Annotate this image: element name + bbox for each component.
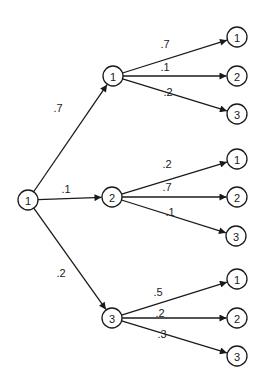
edge-1-to-1 — [123, 40, 227, 73]
node-label: 2 — [234, 313, 240, 325]
probability-label: .7 — [162, 181, 171, 193]
leaf-node-2-1: 1 — [227, 149, 247, 169]
node-label: 1 — [234, 154, 240, 166]
probability-label: .2 — [163, 86, 172, 98]
probability-label: .2 — [155, 307, 164, 319]
edges — [34, 40, 227, 353]
probability-tree-diagram: .7.7.1.2.1.2.7.1.2.5.2.3 1231123212331 — [0, 0, 268, 383]
edge-3-to-3 — [122, 321, 227, 353]
edge-root-to-1 — [34, 85, 107, 192]
root-node: 1 — [18, 190, 38, 210]
probability-label: .2 — [162, 158, 171, 170]
leaf-node-3-3: 3 — [227, 346, 247, 366]
node-label: 1 — [25, 195, 31, 207]
node-label: 3 — [233, 231, 239, 243]
node-label: 1 — [234, 274, 240, 286]
edge-root-to-3 — [34, 208, 106, 309]
probability-label: .3 — [157, 328, 166, 340]
leaf-node-1-2: 2 — [227, 66, 247, 86]
node-label: 3 — [109, 313, 115, 325]
node-label: 2 — [234, 71, 240, 83]
probability-label: .7 — [160, 38, 169, 50]
probability-label: .7 — [53, 102, 62, 114]
leaf-node-3-1: 1 — [227, 269, 247, 289]
leaf-node-1-3: 3 — [227, 104, 247, 124]
node-label: 3 — [234, 351, 240, 363]
edge-1-to-3 — [123, 79, 227, 111]
state-node-1: 1 — [103, 66, 123, 86]
node-label: 1 — [234, 32, 240, 44]
leaf-node-3-2: 2 — [227, 308, 247, 328]
edge-2-to-1 — [122, 162, 227, 194]
probability-label: .5 — [153, 286, 162, 298]
leaf-node-1-1: 1 — [227, 27, 247, 47]
state-node-2: 2 — [102, 187, 122, 207]
leaf-node-2-2: 2 — [227, 187, 247, 207]
probability-label: .1 — [160, 61, 169, 73]
edge-3-to-1 — [122, 282, 227, 315]
node-label: 2 — [109, 192, 115, 204]
probability-label: .1 — [165, 206, 174, 218]
node-label: 3 — [234, 109, 240, 121]
edge-root-to-2 — [38, 197, 102, 199]
probability-label: .2 — [56, 267, 65, 279]
state-node-3: 3 — [102, 308, 122, 328]
node-label: 1 — [110, 71, 116, 83]
leaf-node-2-3: 3 — [226, 226, 246, 246]
probability-label: .1 — [61, 183, 70, 195]
node-label: 2 — [234, 192, 240, 204]
